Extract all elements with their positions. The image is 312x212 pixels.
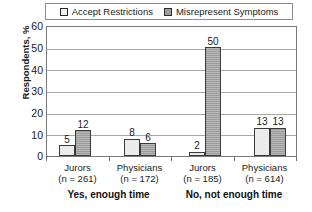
bar-misrepresent-symptoms-physicians-yes [140, 143, 156, 156]
y-tick-30: 30 [0, 86, 43, 97]
plot-area: 5 12 8 6 2 50 13 13 [46, 26, 297, 157]
x-group-label-no-not-enough-time: No, not enough time [171, 189, 297, 200]
y-tick-20: 20 [0, 108, 43, 119]
bar-value-5: 5 [57, 135, 77, 145]
y-axis-tick-labels: 60 50 40 30 20 10 0 [0, 26, 43, 157]
x-label-jurors-no-name: Jurors [189, 162, 215, 173]
bar-value-6: 6 [138, 133, 158, 143]
gridline-40 [47, 70, 296, 71]
y-tick-50: 50 [0, 42, 43, 53]
legend-item-accept-restrictions: Accept Restrictions [60, 7, 153, 17]
x-tick-4 [296, 157, 297, 161]
y-tick-40: 40 [0, 64, 43, 75]
y-tick-60: 60 [0, 21, 43, 32]
legend-item-misrepresent-symptoms: Misrepresent Symptoms [164, 7, 278, 17]
x-tick-3 [234, 157, 235, 161]
legend-swatch-icon-accept-restrictions [60, 8, 68, 16]
bar-accept-restrictions-jurors-no [189, 152, 205, 156]
grouped-bar-chart: Accept Restrictions Misrepresent Symptom… [0, 0, 312, 212]
gridline-50 [47, 49, 296, 50]
x-label-physicians-no-name: Physicians [242, 162, 287, 173]
x-group-label-yes-enough-time: Yes, enough time [46, 189, 171, 200]
bar-misrepresent-symptoms-jurors-yes [75, 130, 91, 156]
x-tick-0 [46, 157, 47, 161]
bar-accept-restrictions-jurors-yes [59, 145, 75, 156]
x-tick-1 [109, 157, 110, 161]
bar-misrepresent-symptoms-jurors-no [205, 47, 221, 156]
bar-value-13-b: 13 [268, 117, 288, 127]
gridline-20 [47, 114, 296, 115]
legend-swatch-icon-misrepresent-symptoms [164, 8, 172, 16]
y-tick-0: 0 [0, 151, 43, 162]
legend-label-misrepresent-symptoms: Misrepresent Symptoms [176, 7, 278, 17]
x-label-physicians-no-n: (n = 614) [228, 173, 301, 184]
x-label-physicians-no: Physicians (n = 614) [228, 162, 301, 184]
x-label-physicians-yes-name: Physicians [117, 162, 162, 173]
bar-value-50: 50 [203, 37, 223, 47]
legend-label-accept-restrictions: Accept Restrictions [72, 7, 153, 17]
bar-misrepresent-symptoms-physicians-no [270, 128, 286, 156]
x-label-jurors-yes-name: Jurors [64, 162, 90, 173]
chart-legend: Accept Restrictions Misrepresent Symptom… [45, 3, 293, 20]
y-tick-10: 10 [0, 130, 43, 141]
bar-value-2: 2 [187, 141, 207, 151]
bar-value-12: 12 [73, 120, 93, 130]
gridline-30 [47, 92, 296, 93]
bar-accept-restrictions-physicians-no [254, 128, 270, 156]
x-tick-2 [171, 157, 172, 161]
